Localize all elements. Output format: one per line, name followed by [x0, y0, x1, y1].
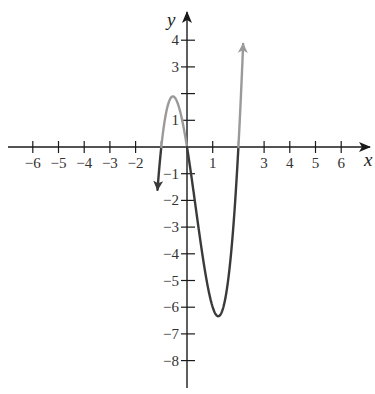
- x-tick-label: 3: [260, 155, 268, 171]
- y-tick-label: −5: [163, 273, 179, 289]
- curve-negative-segment: [187, 147, 238, 316]
- x-tick-label: −6: [25, 155, 41, 171]
- x-tick-label: 6: [337, 155, 345, 171]
- x-axis-ticks: −6−5−4−3−213456: [25, 141, 346, 171]
- y-tick-label: −1: [163, 166, 179, 182]
- y-tick-label: −8: [163, 353, 179, 369]
- y-tick-label: 3: [172, 59, 180, 75]
- x-axis-label: x: [363, 149, 373, 170]
- y-axis-ticks: 431−1−2−3−4−5−6−7−8: [163, 32, 195, 368]
- y-tick-label: −4: [163, 246, 179, 262]
- x-tick-label: 5: [312, 155, 320, 171]
- x-tick-label: −3: [102, 155, 118, 171]
- y-tick-label: −7: [163, 326, 179, 342]
- y-tick-label: −2: [163, 192, 179, 208]
- y-tick-label: 4: [172, 32, 180, 48]
- y-tick-label: −6: [163, 299, 179, 315]
- y-tick-label: −3: [163, 219, 179, 235]
- x-tick-label: −4: [76, 155, 92, 171]
- x-tick-label: 1: [209, 155, 217, 171]
- x-tick-label: −2: [128, 155, 144, 171]
- y-axis-label: y: [165, 9, 176, 30]
- curve-positive-segment: [238, 44, 243, 147]
- curve-negative-segment: [158, 147, 162, 190]
- x-tick-label: 4: [286, 155, 294, 171]
- y-tick-label: 1: [172, 112, 180, 128]
- x-tick-label: −5: [51, 155, 67, 171]
- y-axis: 431−1−2−3−4−5−6−7−8 y: [163, 9, 195, 388]
- cubic-function-graph: −6−5−4−3−213456 x 431−1−2−3−4−5−6−7−8 y: [0, 0, 375, 394]
